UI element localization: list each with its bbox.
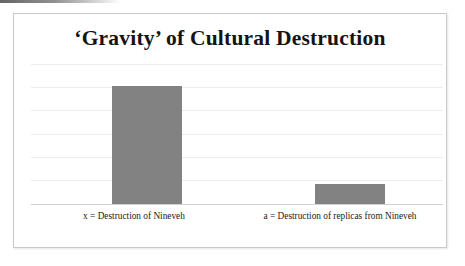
gridline [31, 134, 443, 135]
gridline [31, 157, 443, 158]
gridline [31, 180, 443, 181]
gridline [31, 64, 443, 65]
chart-title: ‘Gravity’ of Cultural Destruction [14, 27, 446, 51]
bar-destruction-of-nineveh [112, 86, 182, 204]
gridline [31, 110, 443, 111]
category-label-row: x = Destruction of Nineveh a = Destructi… [31, 210, 443, 255]
plot-area [31, 64, 443, 205]
category-label-bar-two: a = Destruction of replicas from Nineveh [237, 210, 443, 255]
category-label-bar-one: x = Destruction of Nineveh [31, 210, 237, 255]
scan-artifact-strip [0, 0, 120, 3]
gridline [31, 87, 443, 88]
chart-frame: ‘Gravity’ of Cultural Destruction x = De… [13, 13, 447, 248]
bar-destruction-of-replicas [315, 184, 385, 204]
x-axis-line [31, 204, 443, 205]
